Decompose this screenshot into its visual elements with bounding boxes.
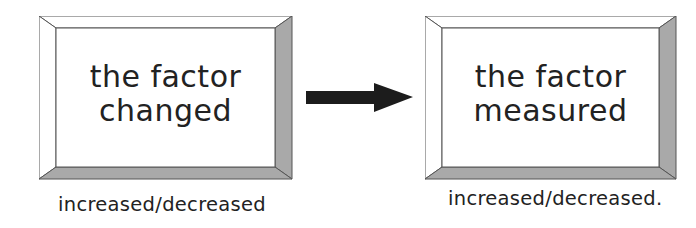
left-caption: increased/decreased (58, 193, 266, 216)
left-box-changed-factor: the factor changed (39, 16, 293, 180)
arrow-right-icon (305, 82, 415, 114)
right-caption: increased/decreased. (448, 187, 663, 210)
right-box-measured-factor: the factor measured (425, 16, 677, 180)
left-box-line1: the factor (56, 60, 275, 94)
left-box-line2: changed (56, 94, 275, 128)
right-box-line2: measured (442, 94, 659, 128)
right-box-line1: the factor (442, 60, 659, 94)
